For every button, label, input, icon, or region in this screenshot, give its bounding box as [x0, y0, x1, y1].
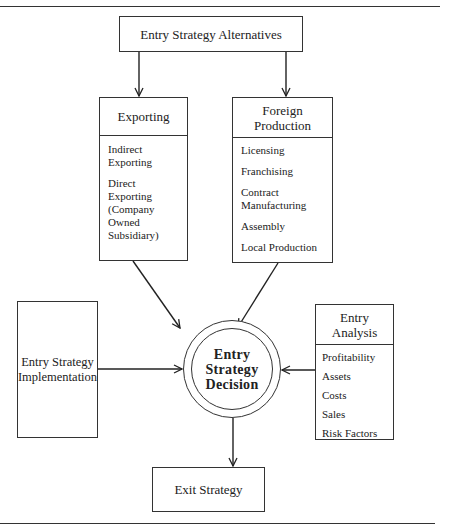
list-item: Franchising — [241, 165, 332, 178]
node-foreign-production: Foreign Production Licensing Franchising… — [232, 97, 333, 263]
node-header-label: Entry Analysis — [330, 310, 380, 340]
node-header-label: Foreign Production — [253, 103, 313, 133]
node-label: Entry Strategy Alternatives — [140, 27, 282, 42]
node-item-list: Licensing Franchising Contract Manufactu… — [233, 138, 332, 254]
node-header: Foreign Production — [233, 98, 332, 138]
node-entry-strategy-decision: Entry Strategy Decision — [183, 320, 281, 418]
list-item: Assembly — [241, 220, 332, 233]
node-entry-analysis: Entry Analysis Profitability Assets Cost… — [315, 304, 394, 440]
connector-arrows — [0, 0, 450, 531]
decision-inner-circle: Entry Strategy Decision — [191, 328, 273, 410]
arrow-foreign-production-to-decision — [238, 263, 278, 327]
node-label: Entry Strategy Decision — [200, 347, 264, 392]
arrow-exporting-to-decision — [133, 261, 180, 328]
list-item: Assets — [322, 370, 393, 383]
list-item: Risk Factors — [322, 427, 393, 440]
node-item-list: Indirect Exporting Direct Exporting (Com… — [100, 136, 187, 242]
node-exit-strategy: Exit Strategy — [152, 467, 265, 512]
node-exporting: Exporting Indirect Exporting Direct Expo… — [99, 97, 188, 261]
list-item: Costs — [322, 389, 393, 402]
list-item: Profitability — [322, 351, 393, 364]
list-item: Direct Exporting (Company Owned Subsidia… — [108, 177, 181, 242]
list-item: Sales — [322, 408, 393, 421]
node-label: Entry Strategy Implementation — [18, 355, 97, 385]
node-header: Entry Analysis — [316, 305, 393, 345]
node-label: Exit Strategy — [174, 482, 242, 497]
list-item: Indirect Exporting — [108, 143, 181, 169]
node-entry-strategy-alternatives: Entry Strategy Alternatives — [119, 16, 303, 52]
node-header: Exporting — [100, 98, 187, 136]
list-item: Licensing — [241, 144, 332, 157]
node-item-list: Profitability Assets Costs Sales Risk Fa… — [316, 345, 393, 440]
list-item: Local Production — [241, 241, 332, 254]
node-entry-strategy-implementation: Entry Strategy Implementation — [17, 301, 98, 438]
list-item: Contract Manufacturing — [241, 186, 311, 212]
node-header-label: Exporting — [118, 109, 170, 124]
